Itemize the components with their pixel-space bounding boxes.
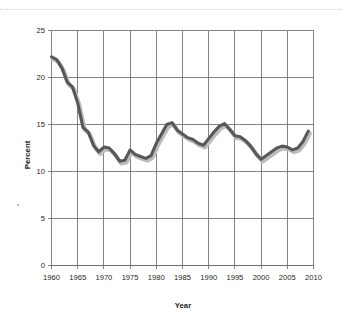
y-tick-label: 10 xyxy=(37,167,45,176)
x-tick-label: 1960 xyxy=(43,273,60,282)
y-tick-label: 0 xyxy=(41,261,45,270)
series-line-percent xyxy=(52,57,309,161)
x-tick-label: 1985 xyxy=(174,273,191,282)
series-line-shadow xyxy=(53,59,310,163)
x-tick-label: 1975 xyxy=(122,273,139,282)
x-tick-label: 2010 xyxy=(305,273,322,282)
x-tick-label: 2005 xyxy=(279,273,296,282)
x-tick-label: 1990 xyxy=(200,273,217,282)
y-tick-label: 5 xyxy=(41,214,45,223)
x-tick-label: 2000 xyxy=(253,273,270,282)
y-tick-label: 15 xyxy=(37,120,45,129)
y-tick-label: 25 xyxy=(37,26,45,35)
x-tick-labels-group: 1960196519701975198019851990199520002005… xyxy=(43,273,322,282)
y-tick-label: 20 xyxy=(37,73,45,82)
line-chart-plot: 0510152025 19601965197019751980198519901… xyxy=(0,0,342,327)
x-tick-label: 1980 xyxy=(148,273,165,282)
x-tick-label: 1970 xyxy=(95,273,112,282)
y-axis-title: Percent xyxy=(23,140,32,169)
x-tick-label: 1965 xyxy=(69,273,86,282)
chart-figure: 0510152025 19601965197019751980198519901… xyxy=(0,0,342,327)
y-tick-labels-group: 0510152025 xyxy=(37,26,45,270)
x-tick-label: 1995 xyxy=(226,273,243,282)
x-axis-title: Year xyxy=(175,301,191,310)
